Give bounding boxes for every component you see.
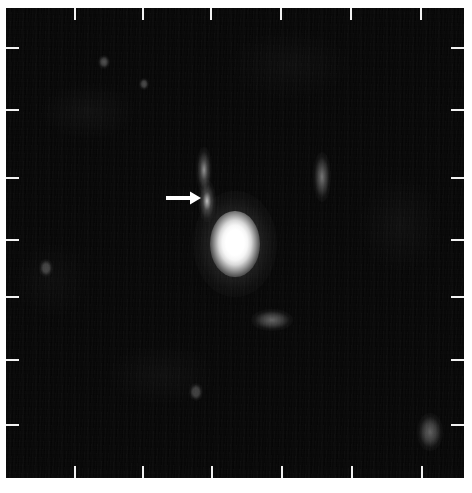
axis-tick-top-4	[350, 8, 352, 20]
companion-arrow	[166, 192, 201, 205]
sky-image-frame	[6, 8, 464, 478]
astronomical-image-figure	[0, 0, 472, 493]
axis-tick-left-0	[6, 47, 19, 49]
axis-tick-bottom-4	[351, 466, 353, 478]
source-faint-streak-upper	[196, 147, 213, 193]
source-companion	[198, 180, 217, 222]
axis-tick-bottom-3	[281, 466, 283, 478]
axis-tick-left-5	[6, 359, 19, 361]
axis-tick-left-2	[6, 177, 19, 179]
axis-tick-top-2	[210, 8, 212, 20]
background-gradient-noise	[6, 8, 464, 478]
axis-tick-top-1	[142, 8, 144, 20]
arrow-head	[190, 192, 201, 205]
detector-stripe-noise	[6, 8, 464, 478]
arrow-shaft	[166, 196, 190, 200]
axis-tick-left-3	[6, 239, 19, 241]
axis-tick-bottom-0	[74, 466, 76, 478]
axis-tick-top-3	[280, 8, 282, 20]
source-faint-patch-lower-right	[251, 309, 293, 332]
source-primary-halo	[193, 191, 276, 297]
source-faint-streak-right	[313, 152, 332, 201]
axis-tick-right-2	[451, 177, 464, 179]
axis-tick-right-6	[451, 424, 464, 426]
companion-arrow-icon	[6, 8, 464, 478]
axis-tick-right-1	[451, 109, 464, 111]
source-faint-dot-upper-left	[98, 55, 111, 68]
source-primary	[210, 211, 259, 278]
axis-tick-top-5	[420, 8, 422, 20]
axis-tick-left-4	[6, 296, 19, 298]
axis-tick-bottom-1	[142, 466, 144, 478]
source-faint-dot-mid-left	[39, 259, 54, 276]
source-faint-dot-lower-mid	[189, 383, 204, 400]
axis-tick-bottom-5	[421, 466, 423, 478]
source-faint-dot-upper-mid	[139, 78, 150, 89]
source-faint-patch-far-right	[417, 413, 442, 451]
axis-tick-right-4	[451, 296, 464, 298]
axis-tick-top-0	[74, 8, 76, 20]
axis-tick-left-1	[6, 109, 19, 111]
axis-tick-right-3	[451, 239, 464, 241]
axis-tick-bottom-2	[211, 466, 213, 478]
axis-tick-right-5	[451, 359, 464, 361]
axis-tick-right-0	[451, 47, 464, 49]
detector-grain-noise	[6, 8, 464, 478]
axis-tick-left-6	[6, 424, 19, 426]
